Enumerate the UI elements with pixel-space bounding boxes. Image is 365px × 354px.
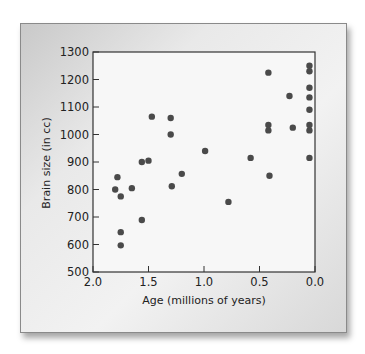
y-tick-label: 1100 [60,100,89,114]
data-point [118,242,124,248]
data-point [266,173,272,179]
data-point [247,155,253,161]
data-point [286,93,292,99]
data-point [118,193,124,199]
data-point [265,122,271,128]
data-point [114,174,120,180]
data-point [139,159,145,165]
y-tick-label: 600 [67,238,89,252]
y-tick-label: 1000 [60,128,89,142]
data-point [306,155,312,161]
data-point [149,113,155,119]
data-point [168,131,174,137]
data-point [306,127,312,133]
y-axis-title: Brain size (in cc) [40,117,53,208]
x-tick-label: 2.0 [84,275,102,289]
data-point [168,115,174,121]
data-point [202,148,208,154]
data-point [306,94,312,100]
data-point [169,183,175,189]
data-point [225,199,231,205]
data-point [145,157,151,163]
y-tick-label: 800 [67,183,89,197]
data-point [306,122,312,128]
scatter-chart: 5006007008009001000110012001300 2.01.51.… [0,0,365,354]
data-point [112,186,118,192]
x-axis-title: Age (millions of years) [142,294,266,307]
data-point [118,229,124,235]
x-tick-label: 1.5 [139,275,157,289]
y-tick-label: 1200 [60,73,89,87]
data-point [265,127,271,133]
data-point [139,217,145,223]
data-point [306,68,312,74]
plot-area [93,52,315,272]
y-tick-label: 1300 [60,45,89,59]
y-tick-label: 900 [67,155,89,169]
data-point [265,69,271,75]
x-tick-label: 0.5 [250,275,268,289]
y-tick-label: 700 [67,210,89,224]
x-tick-label: 0.0 [306,275,324,289]
data-point [129,185,135,191]
data-point [306,85,312,91]
x-tick-label: 1.0 [195,275,213,289]
data-point [306,63,312,69]
data-point [290,124,296,130]
data-point [306,107,312,113]
data-point [179,171,185,177]
